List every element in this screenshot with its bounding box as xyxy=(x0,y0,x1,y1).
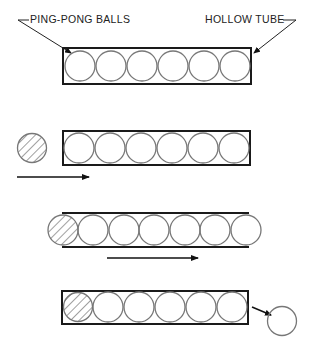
ejected-ball xyxy=(268,307,297,336)
panel-4 xyxy=(62,291,297,336)
panel-3 xyxy=(48,213,261,258)
hatched-ball xyxy=(48,215,78,245)
ping-pong-tube-diagram: PING-PONG BALLS HOLLOW TUBE xyxy=(0,0,311,349)
hatched-ball xyxy=(18,134,47,163)
hatched-ball xyxy=(64,293,93,322)
arrow-eject xyxy=(252,307,271,315)
diagram-graphic xyxy=(0,0,311,349)
panel-1 xyxy=(63,48,251,84)
panel-2 xyxy=(17,131,250,177)
leader-hollow-tube xyxy=(254,20,296,53)
